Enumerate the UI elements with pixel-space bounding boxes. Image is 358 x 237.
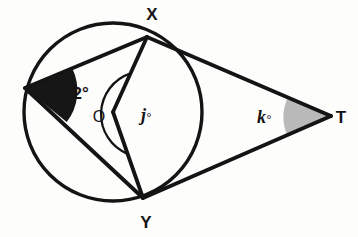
- center-label-o: O: [93, 108, 105, 125]
- circle-geometry-figure: X Y T O 72° j° k°: [0, 0, 358, 237]
- angle-label-j: j°: [138, 105, 151, 125]
- tangent-xt-segment: [147, 37, 331, 116]
- geometry-diagram: X Y T O 72° j° k°: [0, 0, 358, 237]
- tangent-yt-segment: [143, 116, 331, 198]
- angle-label-k: k°: [257, 107, 271, 127]
- point-label-y: Y: [140, 213, 152, 232]
- point-label-x: X: [146, 5, 158, 24]
- external-angle-wedge-k: [284, 98, 331, 136]
- angle-label-k-degree: °: [266, 112, 271, 126]
- angle-label-72: 72°: [63, 84, 89, 103]
- angle-label-k-letter: k: [257, 107, 266, 127]
- angle-label-j-degree: °: [146, 110, 151, 124]
- point-label-t: T: [336, 108, 347, 127]
